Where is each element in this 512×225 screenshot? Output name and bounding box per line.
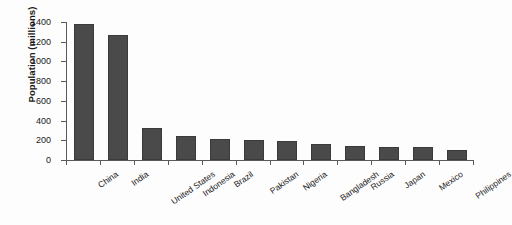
bar bbox=[447, 150, 467, 160]
x-tick bbox=[100, 160, 101, 165]
bar-slot bbox=[67, 22, 101, 160]
y-tick bbox=[61, 42, 66, 43]
x-tick bbox=[337, 160, 338, 165]
bar bbox=[142, 128, 162, 160]
bar-slot bbox=[440, 22, 474, 160]
y-tick-label: 1200 bbox=[31, 37, 51, 47]
plot-area: 0200400600800100012001400 ChinaIndiaUnit… bbox=[66, 22, 474, 161]
bar-slot bbox=[271, 22, 305, 160]
y-tick-label: 600 bbox=[36, 96, 51, 106]
x-tick-label: Mexico bbox=[436, 169, 464, 193]
bar-slot bbox=[338, 22, 372, 160]
bar-slot bbox=[101, 22, 135, 160]
bar bbox=[244, 140, 264, 160]
y-tick-label: 1400 bbox=[31, 17, 51, 27]
bar bbox=[108, 35, 128, 160]
bar-slot bbox=[304, 22, 338, 160]
x-tick bbox=[405, 160, 406, 165]
y-tick bbox=[61, 81, 66, 82]
x-tick bbox=[202, 160, 203, 165]
x-tick-label: China bbox=[96, 169, 120, 190]
bar bbox=[176, 136, 196, 160]
x-tick-label: Pakistan bbox=[268, 169, 300, 196]
bar bbox=[277, 141, 297, 160]
bar-slot bbox=[135, 22, 169, 160]
bar-slot bbox=[372, 22, 406, 160]
y-tick-label: 0 bbox=[46, 155, 51, 165]
y-tick bbox=[61, 61, 66, 62]
x-tick bbox=[134, 160, 135, 165]
y-tick-label: 400 bbox=[36, 116, 51, 126]
y-tick bbox=[61, 140, 66, 141]
y-tick-label: 800 bbox=[36, 76, 51, 86]
bar-series bbox=[67, 22, 474, 160]
x-tick bbox=[168, 160, 169, 165]
x-tick-label: Nigeria bbox=[301, 169, 329, 193]
x-tick-label: Brazil bbox=[232, 169, 255, 189]
x-tick-label: India bbox=[130, 169, 151, 188]
bar bbox=[74, 24, 94, 160]
bar-slot bbox=[203, 22, 237, 160]
x-tick-label: Philippines bbox=[473, 169, 512, 201]
y-tick-label: 200 bbox=[36, 135, 51, 145]
bar-slot bbox=[406, 22, 440, 160]
y-tick bbox=[61, 101, 66, 102]
bar bbox=[345, 146, 365, 160]
bar-slot bbox=[169, 22, 203, 160]
x-tick bbox=[371, 160, 372, 165]
y-tick bbox=[61, 22, 66, 23]
x-tick bbox=[473, 160, 474, 165]
x-tick bbox=[236, 160, 237, 165]
bar bbox=[379, 147, 399, 160]
x-tick-label: Japan bbox=[402, 169, 427, 190]
bar bbox=[413, 147, 433, 160]
x-tick bbox=[66, 160, 67, 165]
x-tick bbox=[270, 160, 271, 165]
bar-slot bbox=[237, 22, 271, 160]
y-tick bbox=[61, 121, 66, 122]
bar bbox=[311, 144, 331, 160]
x-tick bbox=[439, 160, 440, 165]
y-tick-label: 1000 bbox=[31, 56, 51, 66]
bar bbox=[210, 139, 230, 160]
x-tick bbox=[303, 160, 304, 165]
